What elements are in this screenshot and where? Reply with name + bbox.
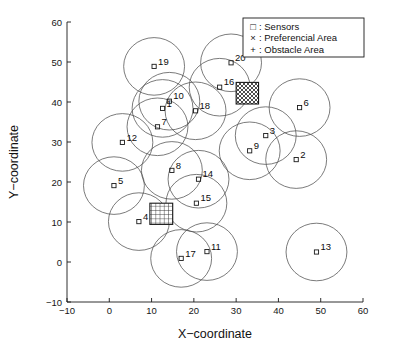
sensor-marker[interactable] <box>294 158 298 162</box>
sensor-marker[interactable] <box>248 149 252 153</box>
sensor-label: 19 <box>158 56 169 67</box>
x-tick-label: 10 <box>146 305 157 316</box>
sensor-marker[interactable] <box>297 106 301 110</box>
sensor-label: 13 <box>320 241 331 252</box>
legend-symbol-sensors: □ <box>250 21 256 32</box>
y-tick-label: 60 <box>51 17 62 28</box>
sensor-marker[interactable] <box>314 250 318 254</box>
legend-label-obstacle-area: : Obstacle Area <box>259 44 325 55</box>
sensor-label: 6 <box>304 97 309 108</box>
legend-label-preferencial-area: : Preferencial Area <box>259 32 338 43</box>
sensor-marker[interactable] <box>112 184 116 188</box>
legend-symbol-preferencial-area: × <box>250 32 256 43</box>
y-axis-title: Y−coordinate <box>7 125 21 199</box>
sensor-label: 16 <box>224 76 235 87</box>
coverage-circle <box>92 114 153 172</box>
sensor-label: 2 <box>300 149 305 160</box>
legend-symbol-obstacle-area: + <box>250 44 256 55</box>
x-tick-label: 60 <box>358 305 369 316</box>
sensor-marker[interactable] <box>137 220 141 224</box>
x-tick-label: 50 <box>315 305 326 316</box>
sensor-marker[interactable] <box>194 201 198 205</box>
sensor-marker[interactable] <box>193 109 197 113</box>
coverage-circle <box>166 174 227 232</box>
sensor-label: 4 <box>143 211 148 222</box>
x-tick-label: 30 <box>231 305 242 316</box>
coverage-circle <box>127 98 188 156</box>
sensor-label: 17 <box>185 248 196 259</box>
plot-frame <box>67 22 363 302</box>
coverage-circle <box>124 38 185 96</box>
obstacle-area <box>150 203 173 224</box>
sensor-label: 15 <box>200 192 211 203</box>
sensor-label: 3 <box>270 125 275 136</box>
sensor-marker[interactable] <box>152 64 156 68</box>
sensor-marker[interactable] <box>196 177 200 181</box>
sensor-marker[interactable] <box>179 256 183 260</box>
sensor-label: 18 <box>200 100 211 111</box>
axis-spines <box>67 22 363 302</box>
sensor-marker[interactable] <box>160 106 164 110</box>
x-tick-label: 0 <box>107 305 112 316</box>
coverage-circle <box>141 142 202 200</box>
legend-label-sensors: : Sensors <box>259 21 299 32</box>
y-tick-label: 20 <box>51 177 62 188</box>
y-tick-label: −10 <box>46 297 62 308</box>
sensor-marker[interactable] <box>170 168 174 172</box>
coverage-circle <box>286 223 347 281</box>
y-tick-label: 10 <box>51 217 62 228</box>
y-tick-label: 30 <box>51 137 62 148</box>
x-tick-label: 40 <box>273 305 284 316</box>
coverage-circle <box>83 157 144 215</box>
figure-container: 1234567891011121314151617181920 −1001020… <box>0 0 397 359</box>
axes-layer: −100102030405060−100102030405060X−coordi… <box>7 17 368 342</box>
preferencial-area <box>236 82 258 104</box>
sensor-label: 7 <box>161 116 166 127</box>
sensor-marker[interactable] <box>120 140 124 144</box>
sensor-label: 9 <box>254 140 259 151</box>
sensor-label: 12 <box>126 132 137 143</box>
sensor-label: 14 <box>203 168 214 179</box>
coverage-circle <box>151 230 212 288</box>
sensor-marker[interactable] <box>264 134 268 138</box>
coverage-circle <box>132 80 193 138</box>
x-axis-title: X−coordinate <box>178 327 252 341</box>
sensor-label: 8 <box>176 160 181 171</box>
x-tick-label: 20 <box>189 305 200 316</box>
sensor-marker[interactable] <box>205 250 209 254</box>
sensor-label: 11 <box>211 241 221 252</box>
legend: □: Sensors×: Preferencial Area+: Obstacl… <box>243 18 364 57</box>
sensor-label: 5 <box>118 175 123 186</box>
scatter-plot: 1234567891011121314151617181920 −1001020… <box>0 0 397 359</box>
y-tick-label: 0 <box>57 257 62 268</box>
sensor-label: 10 <box>173 90 184 101</box>
y-tick-label: 50 <box>51 57 62 68</box>
coverage-circle <box>269 79 330 137</box>
y-tick-label: 40 <box>51 97 62 108</box>
